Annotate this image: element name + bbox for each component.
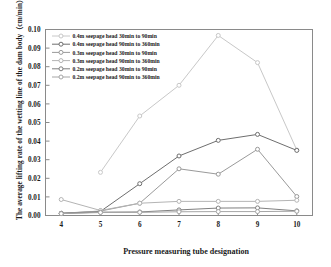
y-tick-label: 0.08 <box>28 63 41 71</box>
y-tick-label: 0.02 <box>28 175 41 183</box>
y-tick-label: 0.03 <box>28 156 41 164</box>
y-axis-ticks: 0.000.010.020.030.040.050.060.070.080.09… <box>28 26 50 220</box>
legend-label: 0.4m seepage head 30min to 90min <box>73 33 158 39</box>
legend-swatch-marker <box>59 34 63 38</box>
legend-label: 0.3m seepage head 30min to 90min <box>73 50 158 56</box>
data-point-marker <box>216 172 220 176</box>
data-point-marker <box>177 167 181 171</box>
x-axis-ticks: 45678910 <box>59 212 300 229</box>
data-point-marker <box>177 154 181 158</box>
data-point-marker <box>256 199 260 203</box>
x-tick-label: 8 <box>216 221 220 229</box>
legend-item[interactable]: 0.2m seepage head 30min to 90min <box>52 66 158 72</box>
data-point-marker <box>256 147 260 151</box>
series-line <box>100 35 296 172</box>
x-tick-label: 6 <box>138 221 142 229</box>
data-point-marker <box>216 210 220 214</box>
data-point-marker <box>177 83 181 87</box>
data-point-marker <box>177 199 181 203</box>
legend-item[interactable]: 0.3m seepage head 90min to 360min <box>52 58 161 64</box>
legend-item[interactable]: 0.4m seepage head 90min to 360min <box>52 41 161 47</box>
data-point-marker <box>138 114 142 118</box>
y-tick-label: 0.10 <box>28 26 41 34</box>
data-point-marker <box>256 132 260 136</box>
y-tick-label: 0.00 <box>28 212 41 220</box>
legend-label: 0.3m seepage head 90min to 360min <box>73 58 161 64</box>
data-point-marker <box>216 138 220 142</box>
data-point-marker <box>295 198 299 202</box>
x-tick-label: 5 <box>99 221 103 229</box>
legend-item[interactable]: 0.4m seepage head 30min to 90min <box>52 33 158 39</box>
legend-label: 0.4m seepage head 90min to 360min <box>73 41 161 47</box>
data-point-marker <box>98 211 102 215</box>
legend-swatch-marker <box>59 42 63 46</box>
x-tick-label: 4 <box>59 221 63 229</box>
data-point-marker <box>256 61 260 65</box>
legend-label: 0.2m seepage head 30min to 90min <box>73 66 158 72</box>
legend-swatch-marker <box>59 59 63 63</box>
data-point-marker <box>138 201 142 205</box>
legend-swatch-marker <box>59 67 63 71</box>
plot-area: 0.000.010.020.030.040.050.060.070.080.09… <box>0 0 331 267</box>
chart-figure: The average lifting rate of the wetting … <box>0 0 331 267</box>
x-tick-label: 7 <box>177 221 181 229</box>
data-point-marker <box>216 33 220 37</box>
y-tick-label: 0.06 <box>28 101 41 109</box>
data-point-marker <box>59 212 63 216</box>
chart-legend: 0.4m seepage head 30min to 90min0.4m see… <box>52 33 161 80</box>
data-point-marker <box>256 210 260 214</box>
x-tick-label: 10 <box>293 221 301 229</box>
legend-item[interactable]: 0.3m seepage head 30min to 90min <box>52 50 158 56</box>
data-point-marker <box>138 182 142 186</box>
data-point-marker <box>216 199 220 203</box>
y-tick-label: 0.01 <box>28 194 41 202</box>
legend-swatch-marker <box>59 50 63 54</box>
data-point-marker <box>177 210 181 214</box>
y-tick-label: 0.07 <box>28 82 41 90</box>
data-point-marker <box>59 198 63 202</box>
data-point-marker <box>138 210 142 214</box>
y-tick-label: 0.09 <box>28 45 41 53</box>
legend-swatch-marker <box>59 75 63 79</box>
data-point-marker <box>295 209 299 213</box>
y-tick-label: 0.04 <box>28 138 41 146</box>
legend-label: 0.2m seepage head 90min to 360min <box>73 74 161 80</box>
x-tick-label: 9 <box>256 221 260 229</box>
data-point-marker <box>98 170 102 174</box>
data-point-marker <box>295 148 299 152</box>
legend-item[interactable]: 0.2m seepage head 90min to 360min <box>52 74 161 80</box>
y-tick-label: 0.05 <box>28 119 41 127</box>
